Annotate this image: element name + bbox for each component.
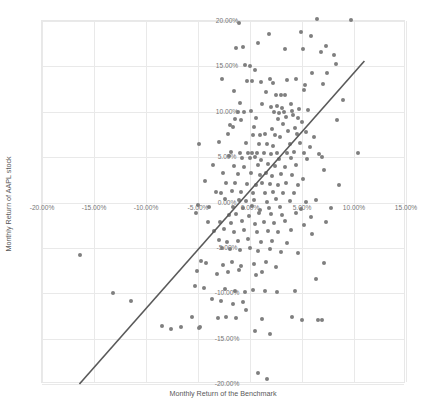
data-point [244, 308, 248, 312]
data-point [273, 133, 277, 137]
data-point [269, 105, 273, 109]
data-point [290, 173, 294, 177]
data-point [278, 205, 282, 209]
data-point [232, 164, 236, 168]
data-point [249, 109, 253, 113]
data-point [264, 90, 268, 94]
data-point [319, 50, 323, 54]
x-tick-label: 5.00% [293, 205, 312, 212]
data-point [248, 246, 252, 250]
data-point [276, 230, 280, 234]
data-point [286, 129, 290, 133]
data-point [275, 104, 279, 108]
data-point [273, 164, 277, 168]
x-tick-label: -20.00% [30, 205, 55, 212]
data-point [238, 101, 242, 105]
data-point [179, 325, 183, 329]
data-point [274, 197, 278, 201]
y-tick-label: 0.00% [218, 199, 237, 206]
data-point [129, 299, 133, 303]
data-point [230, 189, 234, 193]
data-point [216, 316, 220, 320]
data-point [292, 150, 296, 154]
data-point [264, 171, 268, 175]
data-point [270, 174, 274, 178]
data-point [302, 223, 306, 227]
data-point [242, 165, 246, 169]
gridline-vertical [250, 21, 251, 382]
data-point [257, 142, 261, 146]
data-point [270, 239, 274, 243]
data-point [272, 110, 276, 114]
data-point [309, 34, 313, 38]
data-point [198, 325, 202, 329]
data-point [337, 183, 341, 187]
data-point [334, 62, 338, 66]
data-point [233, 117, 237, 121]
data-point [217, 140, 221, 144]
data-point [237, 198, 241, 202]
data-point [206, 220, 210, 224]
data-point [252, 125, 256, 129]
data-point [285, 78, 289, 82]
data-point [254, 183, 258, 187]
data-point [199, 259, 203, 263]
data-point [253, 68, 257, 72]
data-point [279, 172, 283, 176]
data-point [78, 253, 82, 257]
gridline-vertical [302, 21, 303, 382]
data-point [246, 237, 250, 241]
data-point [285, 151, 289, 155]
data-point [260, 270, 264, 274]
data-point [289, 102, 293, 106]
data-point [253, 329, 257, 333]
data-point [321, 82, 325, 86]
data-point [284, 115, 288, 119]
data-point [193, 284, 197, 288]
data-point [269, 212, 273, 216]
data-point [290, 109, 294, 113]
data-point [250, 79, 254, 83]
data-point [294, 163, 298, 167]
data-point [251, 288, 255, 292]
data-point [256, 41, 260, 45]
data-point [296, 116, 300, 120]
data-point [293, 126, 297, 130]
data-point [230, 260, 234, 264]
data-point [293, 289, 297, 293]
data-point [236, 172, 240, 176]
data-point [277, 111, 281, 115]
data-point [260, 181, 264, 185]
data-point [300, 318, 304, 322]
data-point [295, 132, 299, 136]
data-point [160, 324, 164, 328]
data-point [256, 163, 260, 167]
data-point [245, 79, 249, 83]
data-point [226, 132, 230, 136]
data-point [259, 240, 263, 244]
data-point [256, 249, 260, 253]
data-point [238, 151, 242, 155]
data-point [320, 318, 324, 322]
data-point [241, 300, 245, 304]
data-point [289, 156, 293, 160]
data-point [244, 141, 248, 145]
data-point [335, 118, 339, 122]
data-point [294, 211, 298, 215]
data-point [299, 30, 303, 34]
data-point [265, 377, 269, 381]
data-point [260, 102, 264, 106]
data-point [239, 118, 243, 122]
data-point [259, 80, 263, 84]
data-point [271, 190, 275, 194]
data-point [356, 151, 360, 155]
data-point [249, 171, 253, 175]
data-point [257, 211, 261, 215]
gridline-vertical [406, 21, 407, 382]
data-point [190, 315, 194, 319]
data-point [301, 47, 305, 51]
data-point [271, 81, 275, 85]
data-point [289, 228, 293, 232]
data-point [265, 142, 269, 146]
data-point [320, 155, 324, 159]
